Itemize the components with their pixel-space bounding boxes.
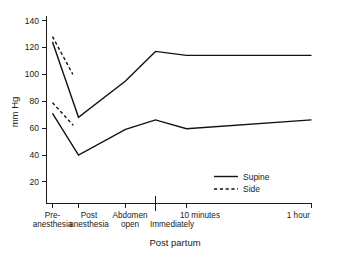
x-label-1-hour: 1 hour	[287, 211, 310, 220]
y-axis-title: mm Hg	[9, 97, 20, 128]
x-label-pre-anesthesia-line2: anesthesia	[33, 220, 73, 229]
legend-label-supine: Supine	[243, 172, 270, 182]
x-label-post-anesthesia-line1: Post	[81, 211, 98, 220]
series-side-systolic	[53, 37, 73, 75]
x-category-labels: Pre- anesthesia Post anesthesia Abdomen …	[33, 211, 311, 229]
y-tick-label-60: 60	[30, 123, 40, 133]
line-chart: 140 120 100 80 60 40 20 Pre- a	[0, 0, 337, 257]
x-label-abdomen-open-line2: open	[121, 220, 140, 229]
y-tick-label-40: 40	[30, 150, 40, 160]
x-label-abdomen-open-line1: Abdomen	[112, 211, 147, 220]
series-supine-systolic	[53, 42, 312, 117]
x-label-pre-anesthesia-line1: Pre-	[45, 211, 61, 220]
y-tick-label-100: 100	[25, 69, 39, 79]
x-label-10-minutes: 10 minutes	[180, 211, 220, 220]
y-tick-group: 140 120 100 80 60 40 20	[25, 16, 47, 187]
y-tick-label-20: 20	[30, 177, 40, 187]
y-tick-label-140: 140	[25, 16, 39, 26]
y-tick-label-120: 120	[25, 42, 39, 52]
x-label-post-anesthesia-line2: anesthesia	[69, 220, 109, 229]
series-side-diastolic	[53, 103, 74, 126]
chart-figure: 140 120 100 80 60 40 20 Pre- a	[0, 0, 337, 257]
series-supine-diastolic	[53, 113, 312, 155]
y-tick-label-80: 80	[30, 96, 40, 106]
legend-label-side: Side	[243, 184, 260, 194]
x-label-immediately: Immediately	[150, 220, 195, 229]
chart-legend: Supine Side	[214, 172, 270, 195]
x-axis-title: Post partum	[149, 237, 200, 248]
